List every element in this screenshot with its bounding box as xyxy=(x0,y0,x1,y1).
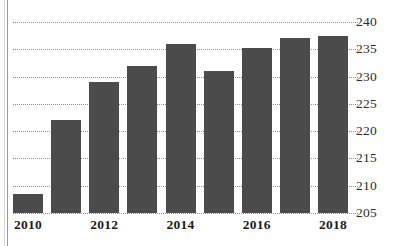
y-axis-tick-label: 235 xyxy=(356,42,377,56)
x-axis-tick-label: 2018 xyxy=(303,217,363,233)
bar xyxy=(204,71,234,213)
y-axis-tick-label: 215 xyxy=(356,151,377,165)
bar xyxy=(242,48,272,213)
bar-chart: 205210215220225230235240 201020122014201… xyxy=(0,0,405,246)
y-axis-tick-label: 240 xyxy=(356,15,377,29)
y-axis-tick-label: 210 xyxy=(356,179,377,193)
bar xyxy=(280,38,310,213)
x-axis-tick-label: 2014 xyxy=(151,217,211,233)
y-axis-tick-label: 225 xyxy=(356,97,377,111)
bar xyxy=(127,66,157,213)
bar-series xyxy=(13,22,348,213)
x-axis-tick-label: 2010 xyxy=(0,217,58,233)
page-edge-outer-rule xyxy=(4,0,5,246)
bar xyxy=(318,36,348,213)
bar xyxy=(166,44,196,213)
x-axis-labels: 20102012201420162018 xyxy=(13,217,348,237)
bar xyxy=(51,120,81,213)
y-axis-tick-label: 220 xyxy=(356,124,377,138)
bar xyxy=(89,82,119,213)
bar xyxy=(13,194,43,213)
page-edge-inner-rule xyxy=(7,0,8,246)
x-axis-tick-label: 2016 xyxy=(227,217,287,233)
y-axis-tick-label: 230 xyxy=(356,70,377,84)
gridline xyxy=(13,213,358,214)
plot-area xyxy=(13,22,348,213)
x-axis-tick-label: 2012 xyxy=(74,217,134,233)
